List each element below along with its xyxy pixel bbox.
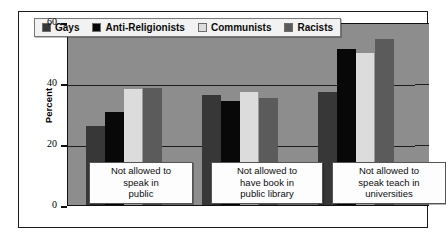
legend-item-anti-religionists: Anti-Religionists bbox=[92, 22, 184, 33]
legend-swatch-icon-communists bbox=[198, 23, 207, 32]
category-label-line: public library bbox=[215, 188, 319, 200]
category-label-box-2: Not allowed tohave book inpublic library bbox=[211, 162, 323, 204]
y-axis-tick-label: 40 bbox=[29, 77, 57, 88]
y-axis-tick bbox=[61, 23, 67, 25]
legend-item-communists: Communists bbox=[198, 22, 272, 33]
gridline-extension bbox=[415, 84, 429, 85]
legend-label-communists: Communists bbox=[211, 22, 272, 33]
y-axis-tick bbox=[61, 206, 67, 208]
legend-label-racists: Racists bbox=[297, 22, 333, 33]
legend-swatch-icon-racists bbox=[284, 23, 293, 32]
category-label-line: Not allowed to bbox=[336, 165, 442, 177]
y-axis-tick-label: 20 bbox=[29, 138, 57, 149]
category-label-box-1: Not allowed tospeak inpublic bbox=[89, 162, 193, 204]
y-axis: Percent bbox=[19, 12, 67, 229]
category-label-line: speak in bbox=[93, 177, 189, 189]
category-label-line: universities bbox=[336, 188, 442, 200]
legend-swatch-icon-anti-religionists bbox=[92, 23, 101, 32]
legend-label-gays: Gays bbox=[55, 22, 79, 33]
y-axis-tick bbox=[61, 84, 67, 86]
legend-item-racists: Racists bbox=[284, 22, 333, 33]
category-label-line: Not allowed to bbox=[215, 165, 319, 177]
y-axis-tick-label: 60 bbox=[29, 16, 57, 27]
gridline-extension bbox=[415, 145, 429, 146]
category-label-line: have book in bbox=[215, 177, 319, 189]
y-axis-tick-label: 0 bbox=[29, 199, 57, 210]
category-label-box-3: Not allowed tospeak teach inuniversities bbox=[332, 162, 446, 204]
chart-figure: Percent Gays Anti-Religionists Communist… bbox=[18, 11, 428, 228]
y-axis-tick bbox=[61, 145, 67, 147]
category-label-line: public bbox=[93, 188, 189, 200]
category-label-line: speak teach in bbox=[336, 177, 442, 189]
category-label-line: Not allowed to bbox=[93, 165, 189, 177]
legend-label-anti-religionists: Anti-Religionists bbox=[105, 22, 184, 33]
chart-legend: Gays Anti-Religionists Communists Racist… bbox=[34, 18, 341, 37]
